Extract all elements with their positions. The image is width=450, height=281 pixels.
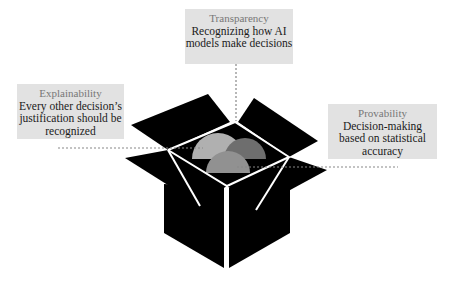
label-body-line: based on statistical bbox=[328, 132, 437, 145]
label-transparency: Transparency Recognizing how AI models m… bbox=[185, 9, 293, 64]
label-body-line: justification should be bbox=[17, 112, 124, 125]
label-title: Transparency bbox=[185, 12, 293, 25]
label-body-line: recognized bbox=[17, 125, 124, 138]
label-explainability: Explainability Every other decision’s ju… bbox=[17, 84, 124, 139]
label-provability: Provability Decision-making based on sta… bbox=[328, 104, 437, 159]
label-body-line: accuracy bbox=[328, 145, 437, 158]
label-title: Explainability bbox=[17, 87, 124, 100]
label-body-line: Every other decision’s bbox=[17, 100, 124, 113]
label-body-line: Decision-making bbox=[328, 120, 437, 133]
label-body-line: Recognizing how AI bbox=[185, 25, 293, 38]
label-title: Provability bbox=[328, 107, 437, 120]
label-body-line: models make decisions bbox=[185, 37, 293, 50]
box-face-right bbox=[229, 184, 290, 268]
